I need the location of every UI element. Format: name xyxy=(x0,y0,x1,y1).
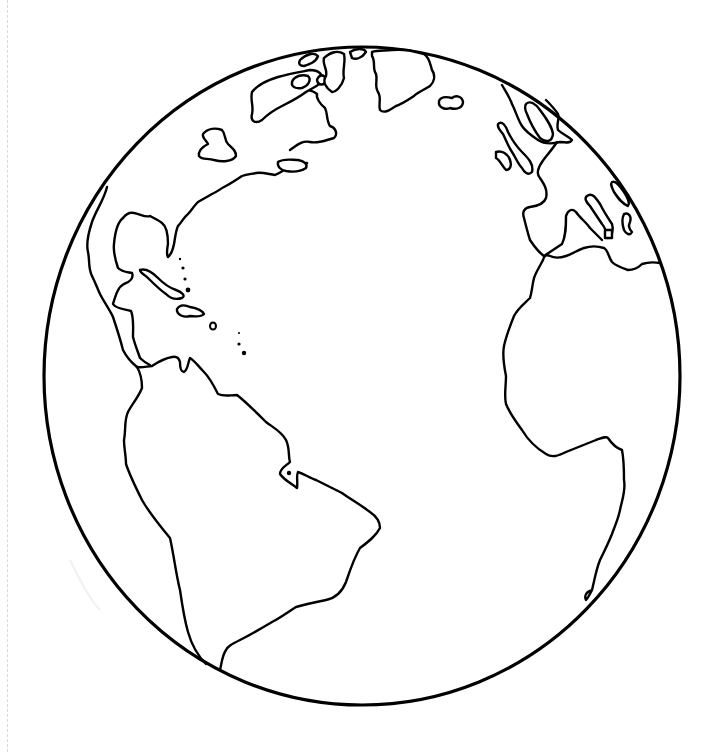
sicily xyxy=(605,230,612,238)
arctic-island-1 xyxy=(292,75,310,88)
globe-outline xyxy=(44,47,680,705)
bahamas-dot-2 xyxy=(181,266,184,269)
bahamas-dot-3 xyxy=(183,277,186,280)
newfoundland xyxy=(278,160,307,172)
bahamas-dot-1 xyxy=(179,258,181,260)
lesser-antilles-dot-3 xyxy=(242,351,246,355)
marajo-island xyxy=(287,471,291,475)
lesser-antilles-dot-1 xyxy=(238,332,240,334)
arctic-island-3 xyxy=(324,52,345,92)
lesser-antilles-dot-2 xyxy=(237,342,240,345)
globe-drawing xyxy=(0,0,722,752)
iceland xyxy=(439,96,463,108)
bahamas-dot-4 xyxy=(186,288,191,293)
puerto-rico xyxy=(210,323,216,330)
